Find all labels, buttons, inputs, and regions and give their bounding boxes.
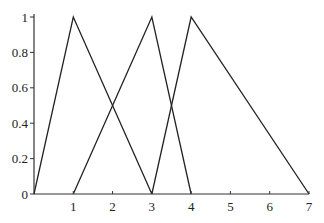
y-tick-label: 0 (22, 187, 29, 202)
x-tick-label: 3 (149, 199, 156, 214)
fuzzy-membership-chart: 00.20.40.60.81 1234567 (0, 0, 324, 223)
y-tick-label: 0.4 (12, 116, 29, 131)
y-ticks: 00.20.40.60.81 (12, 10, 34, 202)
x-tick-label: 4 (188, 199, 195, 214)
series-line-2 (73, 17, 191, 194)
series-line-3 (152, 17, 309, 194)
y-tick-label: 0.2 (12, 151, 28, 166)
x-tick-label: 7 (306, 199, 313, 214)
x-tick-label: 2 (109, 199, 116, 214)
series-line-1 (34, 17, 152, 194)
series-layer (34, 17, 309, 194)
x-tick-label: 5 (227, 199, 234, 214)
y-tick-label: 0.8 (12, 45, 28, 60)
x-tick-label: 1 (70, 199, 77, 214)
y-tick-label: 1 (22, 10, 29, 25)
y-tick-label: 0.6 (12, 80, 29, 95)
x-tick-label: 6 (266, 199, 273, 214)
